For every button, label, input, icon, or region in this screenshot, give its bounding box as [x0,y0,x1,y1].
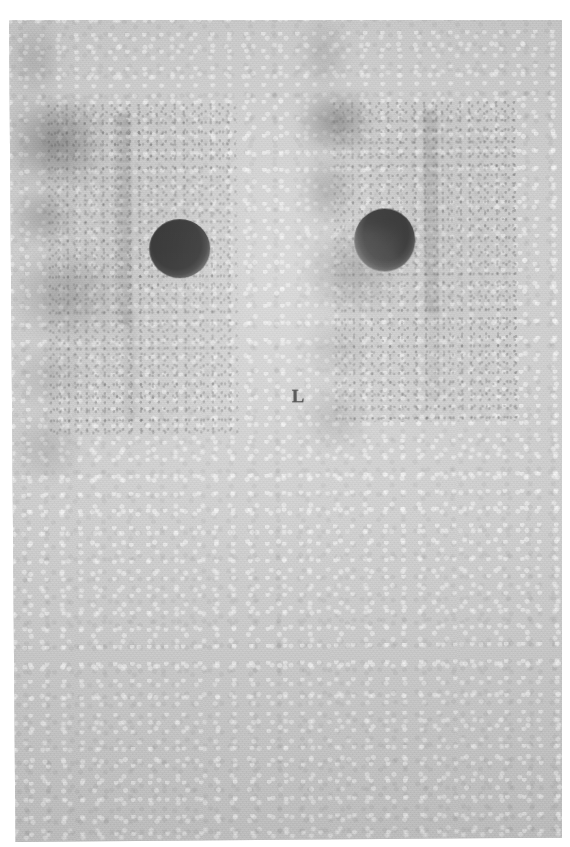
scintigraphy-scan-page: L [0,0,570,847]
paper-margin-bottom [0,842,570,847]
film-plate: L [9,16,568,842]
paper-margin-top [0,0,570,20]
paper-margin-left [0,0,9,847]
film-vignette-overlay [9,16,568,842]
paper-margin-right [562,0,570,847]
